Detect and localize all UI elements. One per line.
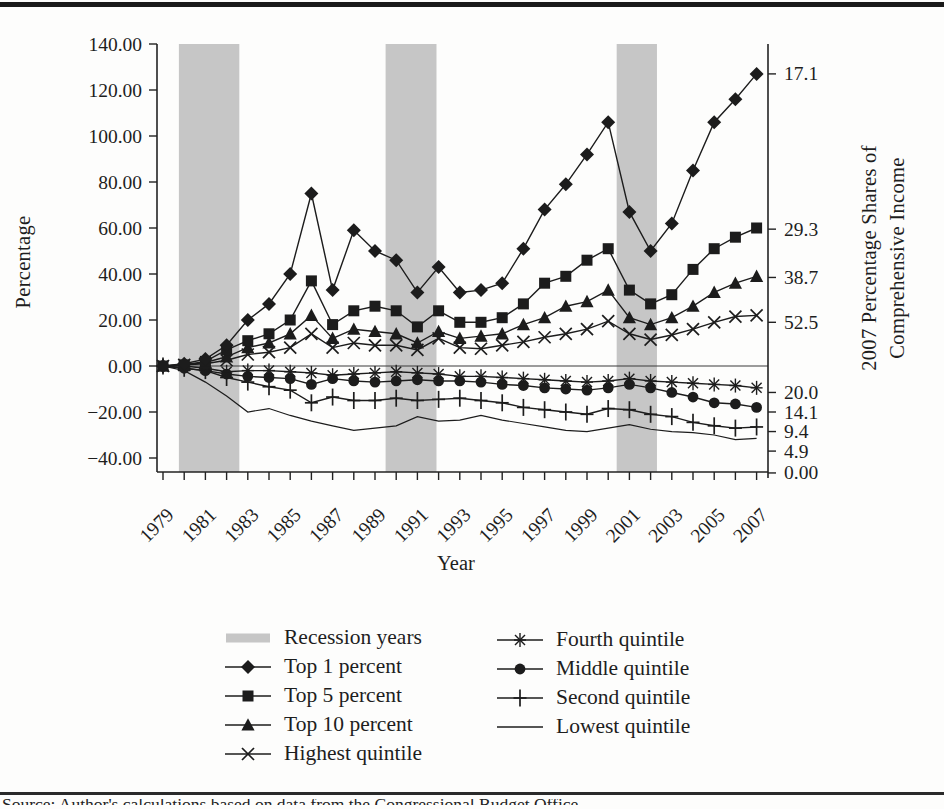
legend-item-top-5-percent: Top 5 percent	[222, 681, 422, 710]
x-axis-tick-label: 1991	[390, 504, 432, 546]
chart-legend-column-2: Fourth quintileMiddle quintileSecond qui…	[494, 625, 690, 741]
x-axis-ticks: 1979198119831985198719891991199319951997…	[135, 472, 771, 546]
right-axis-tick-label: 14.1	[784, 402, 818, 423]
recession-band	[179, 44, 239, 472]
legend-item-lowest-quintile: Lowest quintile	[494, 712, 690, 741]
diamond-marker-icon	[222, 656, 274, 678]
x-axis-tick-label: 1995	[475, 504, 517, 546]
right-axis-tick-label: 17.1	[784, 63, 818, 84]
legend-item-highest-quintile: Highest quintile	[222, 739, 422, 768]
legend-label: Recession years	[284, 625, 422, 650]
right-axis-tick-label: 20.0	[784, 382, 818, 403]
legend-label: Lowest quintile	[556, 714, 690, 739]
clipped-caption: Source: Author's calculations based on d…	[2, 799, 942, 805]
left-axis-tick-label: 20.00	[98, 310, 142, 331]
left-axis-tick-label: 40.00	[98, 264, 142, 285]
right-axis-title-line1: 2007 Percentage Shares of	[858, 145, 881, 371]
x-axis-tick-label: 2001	[602, 504, 644, 546]
left-axis-ticks: 140.00120.00100.0080.0060.0040.0020.000.…	[87, 34, 157, 469]
legend-item-second-quintile: Second quintile	[494, 683, 690, 712]
legend-label: Top 10 percent	[284, 712, 413, 737]
left-axis-title: Percentage	[12, 216, 35, 309]
caption-fragment-text: Source: Author's calculations based on d…	[2, 799, 942, 805]
x-axis-tick-label: 1989	[347, 504, 389, 546]
left-axis-tick-label: −20.00	[87, 402, 142, 423]
figure-page: 140.00120.00100.0080.0060.0040.0020.000.…	[0, 0, 944, 809]
x-axis-tick-label: 2007	[729, 504, 772, 547]
legend-label: Second quintile	[556, 685, 690, 710]
legend-item-top-10-percent: Top 10 percent	[222, 710, 422, 739]
x-axis-tick-label: 1997	[517, 504, 560, 547]
left-axis-tick-label: 0.00	[108, 356, 142, 377]
left-axis-tick-label: 100.00	[88, 126, 142, 147]
x-axis-tick-label: 2003	[644, 504, 686, 546]
right-axis-tick-label: 9.4	[784, 421, 809, 442]
legend-label: Highest quintile	[284, 741, 422, 766]
legend-label: Fourth quintile	[556, 627, 684, 652]
none-marker-icon	[494, 716, 546, 738]
x-axis-tick-label: 1985	[263, 504, 305, 546]
right-axis-tick-label: 38.7	[784, 267, 818, 288]
x-axis-tick-label: 2005	[687, 504, 729, 546]
x-marker-icon	[222, 743, 274, 765]
legend-label: Middle quintile	[556, 656, 689, 681]
triangle-marker-icon	[222, 714, 274, 736]
left-axis-tick-label: 60.00	[98, 218, 142, 239]
x-axis-tick-label: 1999	[559, 504, 601, 546]
right-axis-tick-label: 52.5	[784, 312, 818, 333]
legend-label: Top 5 percent	[284, 683, 402, 708]
legend-item-middle-quintile: Middle quintile	[494, 654, 690, 683]
x-axis-tick-label: 1983	[220, 504, 262, 546]
legend-item-recession-years: Recession years	[222, 623, 422, 652]
right-axis-tick-label: 0.00	[784, 462, 818, 483]
band-marker-icon	[222, 627, 274, 649]
asterisk-marker-icon	[494, 629, 546, 651]
legend-item-top-1-percent: Top 1 percent	[222, 652, 422, 681]
x-axis-title: Year	[437, 552, 475, 575]
x-axis-tick-label: 1993	[432, 504, 474, 546]
chart-legend-column-1: Recession yearsTop 1 percentTop 5 percen…	[222, 623, 422, 768]
x-axis-tick-label: 1981	[178, 504, 220, 546]
right-axis-tick-label: 4.9	[784, 441, 808, 462]
right-axis-labels: 17.129.338.752.520.014.19.44.90.00	[768, 63, 818, 483]
left-axis-tick-label: 80.00	[98, 172, 142, 193]
plus-marker-icon	[494, 687, 546, 709]
left-axis-tick-label: 140.00	[88, 34, 142, 55]
x-axis-tick-label: 1979	[135, 504, 177, 546]
legend-label: Top 1 percent	[284, 654, 402, 679]
bottom-rule	[0, 792, 944, 795]
axes	[157, 44, 768, 478]
legend-item-fourth-quintile: Fourth quintile	[494, 625, 690, 654]
line-chart: 140.00120.00100.0080.0060.0040.0020.000.…	[0, 0, 944, 600]
left-axis-tick-label: −40.00	[87, 448, 142, 469]
x-axis-tick-label: 1987	[305, 504, 348, 547]
square-marker-icon	[222, 685, 274, 707]
circle-marker-icon	[494, 658, 546, 680]
right-axis-tick-label: 29.3	[784, 219, 818, 240]
right-axis-title-line2: Comprehensive Income	[886, 157, 909, 358]
left-axis-tick-label: 120.00	[88, 80, 142, 101]
